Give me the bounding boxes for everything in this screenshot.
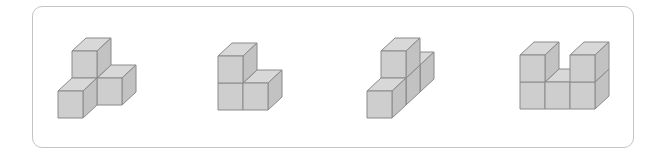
cube-front-face	[58, 91, 83, 118]
cube-front-face	[520, 82, 545, 109]
cube-front-face	[72, 51, 97, 78]
cube-front-face	[570, 55, 595, 82]
cube-front-face	[381, 51, 406, 78]
cube	[58, 78, 97, 118]
figure-2	[218, 43, 282, 110]
cube-front-face	[218, 83, 243, 110]
cube-front-face	[520, 55, 545, 82]
cube-front-face	[243, 83, 268, 110]
cube-front-face	[97, 78, 122, 105]
figure-3	[367, 38, 434, 118]
cube-front-face	[218, 56, 243, 83]
cube-front-face	[545, 82, 570, 109]
cube	[367, 78, 406, 118]
figure-4	[520, 42, 609, 109]
cube-front-face	[367, 91, 392, 118]
figure-1	[58, 38, 136, 118]
cube-figures	[0, 0, 667, 159]
cube-front-face	[570, 82, 595, 109]
